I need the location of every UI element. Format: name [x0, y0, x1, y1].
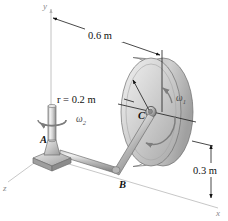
- omega1-subscript: 1: [183, 98, 186, 105]
- dimension-0-3m: 0.3 m: [192, 141, 228, 198]
- dim-0-6m-label: 0.6 m: [88, 30, 112, 41]
- figure-canvas: y z x ω1: [0, 0, 228, 221]
- omega2-label: ω2: [76, 114, 87, 126]
- vertical-shaft: [48, 106, 56, 140]
- omega2-subscript: 2: [83, 119, 87, 126]
- shaft-top-cap: [48, 104, 56, 107]
- point-b-label: B: [118, 179, 126, 190]
- point-a-label: A: [39, 134, 47, 145]
- z-axis-label: z: [2, 183, 7, 193]
- point-c-label: C: [138, 110, 146, 121]
- dim-radius-label: r = 0.2 m: [57, 94, 96, 105]
- x-axis-label: x: [215, 208, 220, 218]
- y-axis-label: y: [42, 1, 47, 11]
- dim-0-3m-extension-top: [192, 141, 213, 146]
- mechanics-figure: y z x ω1: [0, 0, 228, 221]
- dim-0-3m-label: 0.3 m: [193, 165, 217, 176]
- rod-elbow-b: [112, 167, 120, 174]
